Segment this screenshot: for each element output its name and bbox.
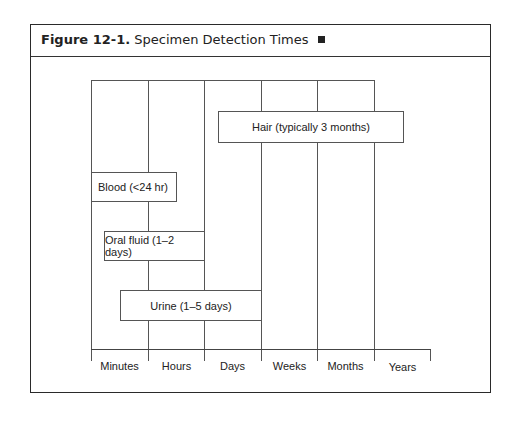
grid-top-line <box>91 80 374 81</box>
x-label-years: Years <box>374 361 431 373</box>
bar-label: Oral fluid (1–2 days) <box>105 234 204 258</box>
figure-title: Figure 12-1. Specimen Detection Times <box>41 32 325 47</box>
bar-oral-fluid: Oral fluid (1–2 days) <box>104 231 205 261</box>
x-label-hours: Hours <box>148 360 205 372</box>
x-label-minutes: Minutes <box>91 360 148 372</box>
figure-title-text: Specimen Detection Times <box>134 32 308 47</box>
bar-label: Urine (1–5 days) <box>150 300 231 312</box>
x-label-months: Months <box>317 360 374 372</box>
bar-hair: Hair (typically 3 months) <box>218 111 404 143</box>
x-axis-baseline <box>91 349 431 350</box>
end-square-icon <box>318 36 325 43</box>
figure-header: Figure 12-1. Specimen Detection Times <box>31 25 490 57</box>
grid-line <box>91 80 92 361</box>
figure-label: Figure 12-1. <box>41 32 130 47</box>
bar-urine: Urine (1–5 days) <box>120 290 262 321</box>
x-label-days: Days <box>204 360 261 372</box>
bar-label: Hair (typically 3 months) <box>252 121 370 133</box>
x-label-weeks: Weeks <box>261 360 318 372</box>
bar-blood: Blood (<24 hr) <box>91 172 177 202</box>
grid-tick <box>430 349 431 361</box>
bar-label: Blood (<24 hr) <box>98 181 168 193</box>
